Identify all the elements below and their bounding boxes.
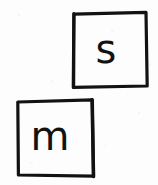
letter-box-s[interactable]: s xyxy=(71,10,149,90)
letter-glyph-s: s xyxy=(71,10,149,90)
letter-box-m[interactable]: m xyxy=(15,98,95,178)
scanned-page: s m xyxy=(0,0,158,185)
letter-glyph-m: m xyxy=(15,98,95,178)
